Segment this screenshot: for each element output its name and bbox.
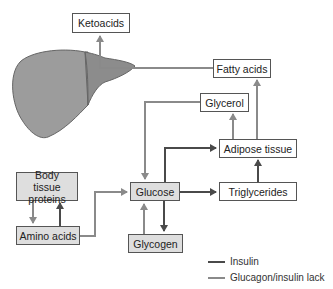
node-label: Amino acids (19, 230, 76, 242)
node-label: Glucose (136, 186, 175, 198)
node-body-tissue-proteins: Body tissue proteins (16, 172, 78, 201)
node-glycogen: Glycogen (128, 234, 183, 253)
edge-glycerol-glucose (145, 102, 200, 179)
node-ketoacids: Ketoacids (72, 13, 130, 33)
node-label: Adipose tissue (224, 143, 292, 155)
legend-insulin: Insulin (208, 256, 259, 267)
node-label: Glycogen (133, 238, 177, 250)
legend-glucagon: Glucagon/insulin lack (208, 272, 325, 283)
glucagon-line-swatch (208, 277, 225, 279)
node-glucose: Glucose (130, 182, 180, 201)
legend-glucagon-label: Glucagon/insulin lack (230, 272, 325, 283)
insulin-line-swatch (208, 261, 225, 263)
legend-insulin-label: Insulin (230, 256, 259, 267)
edge-glucose-adipose (165, 148, 216, 182)
node-label: Ketoacids (78, 17, 124, 29)
edge-aminoacids-glucose (80, 192, 127, 236)
node-fatty-acids: Fatty acids (213, 59, 271, 78)
liver-icon (13, 50, 135, 138)
node-amino-acids: Amino acids (16, 226, 80, 245)
node-triglycerides: Triglycerides (219, 182, 297, 201)
node-glycerol: Glycerol (200, 93, 249, 112)
node-label: Triglycerides (228, 186, 287, 198)
node-adipose-tissue: Adipose tissue (219, 139, 297, 158)
node-label: Fatty acids (217, 63, 268, 75)
node-label: Body tissue proteins (21, 169, 73, 205)
node-label: Glycerol (205, 97, 244, 109)
